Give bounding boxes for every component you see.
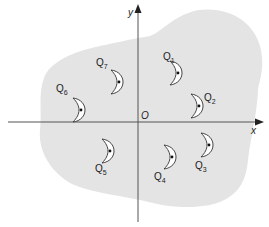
crescent-label-subscript: 6 bbox=[64, 89, 68, 96]
crescent-label-subscript: 2 bbox=[212, 98, 216, 105]
center-dot bbox=[198, 105, 201, 108]
y-axis-label: y bbox=[127, 7, 134, 18]
x-axis-arrow-icon bbox=[255, 119, 264, 126]
center-dot bbox=[118, 81, 121, 84]
coordinate-diagram: y x O Q1Q2Q3Q4Q5Q6Q7 bbox=[0, 0, 269, 227]
center-dot bbox=[171, 156, 174, 159]
center-dot bbox=[177, 72, 180, 75]
diagram-canvas: y x O Q1Q2Q3Q4Q5Q6Q7 bbox=[0, 0, 269, 227]
center-dot bbox=[109, 150, 112, 153]
x-axis-label: x bbox=[250, 125, 257, 136]
crescent-label-subscript: 7 bbox=[104, 63, 108, 70]
origin-label: O bbox=[141, 110, 149, 121]
crescent-label-subscript: 5 bbox=[103, 169, 107, 176]
crescent-label-subscript: 1 bbox=[171, 57, 175, 64]
shaded-region bbox=[40, 9, 262, 207]
crescent-label-subscript: 4 bbox=[162, 177, 166, 184]
y-axis-arrow-icon bbox=[135, 4, 142, 13]
center-dot bbox=[208, 144, 211, 147]
center-dot bbox=[80, 109, 83, 112]
crescent-label-subscript: 3 bbox=[203, 166, 207, 173]
